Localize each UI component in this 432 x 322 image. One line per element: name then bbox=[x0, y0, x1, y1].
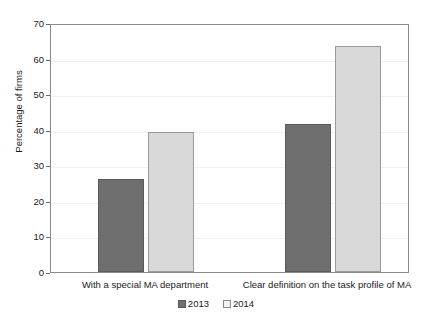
y-tick-label-50: 50 bbox=[14, 90, 44, 100]
legend: 2013 2014 bbox=[0, 299, 432, 309]
bar-2014-special-ma-department bbox=[148, 132, 194, 272]
legend-item-2013: 2013 bbox=[178, 299, 209, 309]
bar-2014-clear-definition-task-profile bbox=[335, 46, 381, 272]
y-tick-mark-0 bbox=[46, 273, 50, 274]
y-tick-label-60: 60 bbox=[14, 55, 44, 65]
legend-label-2013: 2013 bbox=[188, 299, 209, 309]
x-tick-label-clear-definition-task-profile: Clear definition on the task profile of … bbox=[222, 279, 432, 290]
y-tick-label-0: 0 bbox=[14, 268, 44, 278]
y-tick-label-40: 40 bbox=[14, 126, 44, 136]
y-tick-label-20: 20 bbox=[14, 197, 44, 207]
legend-item-2014: 2014 bbox=[223, 299, 254, 309]
plot-area bbox=[50, 24, 409, 273]
bar-2013-special-ma-department bbox=[98, 179, 144, 273]
y-tick-label-10: 10 bbox=[14, 232, 44, 242]
bar-chart-figure: Percentage of firms 70 60 50 40 30 20 10… bbox=[0, 0, 432, 322]
y-tick-label-70: 70 bbox=[14, 19, 44, 29]
light-swatch-icon bbox=[223, 300, 231, 308]
y-tick-label-30: 30 bbox=[14, 161, 44, 171]
dark-swatch-icon bbox=[178, 300, 186, 308]
x-tick-label-special-ma-department: With a special MA department bbox=[50, 279, 240, 290]
legend-label-2014: 2014 bbox=[233, 299, 254, 309]
bar-2013-clear-definition-task-profile bbox=[285, 124, 331, 272]
plot-inner bbox=[51, 25, 408, 272]
